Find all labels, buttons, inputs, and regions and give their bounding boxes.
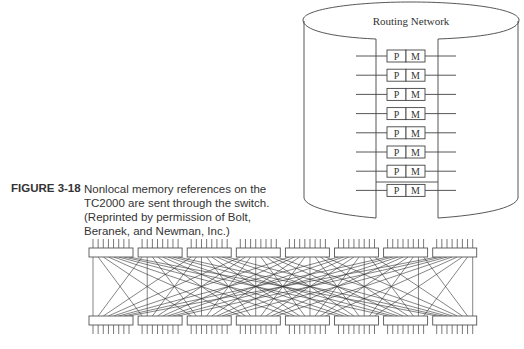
switch-box-top [433, 239, 477, 257]
memory-label: M [411, 89, 420, 100]
processor-label: P [394, 89, 400, 100]
switch-box-bottom [335, 316, 379, 334]
switch-box-bottom [236, 316, 280, 334]
switch-box-bottom [433, 316, 477, 334]
memory-label: M [411, 51, 420, 62]
butterfly-switch [89, 239, 477, 334]
caption-line: Nonlocal memory references on the [84, 182, 304, 196]
switch-box-bottom [89, 316, 133, 334]
switch-box-top [236, 239, 280, 257]
figure-caption: Nonlocal memory references on the TC2000… [84, 182, 304, 238]
pm-node: PM [356, 146, 456, 158]
processor-label: P [394, 51, 400, 62]
pm-node: PM [356, 88, 456, 100]
switch-box-top [89, 239, 133, 257]
tc2000-diagram: Routing Network PMPMPMPMPMPMPMPM [0, 0, 524, 349]
memory-label: M [411, 185, 420, 196]
routing-network-title: Routing Network [373, 15, 450, 27]
pm-node: PM [356, 108, 456, 120]
pm-node: PM [356, 165, 456, 177]
processor-label: P [394, 147, 400, 158]
pm-node: PM [356, 50, 456, 62]
pm-node: PM [356, 69, 456, 81]
pm-node: PM [356, 184, 456, 196]
switch-interconnect [93, 257, 473, 316]
pm-node: PM [356, 127, 456, 139]
processor-label: P [394, 70, 400, 81]
memory-label: M [411, 166, 420, 177]
switch-box-top [384, 239, 428, 257]
switch-box-top [335, 239, 379, 257]
figure-label: FIGURE 3-18 [11, 182, 81, 194]
memory-label: M [411, 128, 420, 139]
switch-box-bottom [187, 316, 231, 334]
caption-line: (Reprinted by permission of Bolt, [84, 210, 304, 224]
caption-line: TC2000 are sent through the switch. [84, 196, 304, 210]
caption-line: Beranek, and Newman, Inc.) [84, 224, 304, 238]
switch-box-top [138, 239, 182, 257]
memory-label: M [411, 147, 420, 158]
switch-box-bottom [285, 316, 329, 334]
switch-box-bottom [384, 316, 428, 334]
processor-label: P [394, 109, 400, 120]
processor-label: P [394, 185, 400, 196]
memory-label: M [411, 70, 420, 81]
memory-label: M [411, 109, 420, 120]
switch-box-bottom [138, 316, 182, 334]
processor-label: P [394, 128, 400, 139]
processor-label: P [394, 166, 400, 177]
switch-box-top [187, 239, 231, 257]
pm-node-list: PMPMPMPMPMPMPMPM [356, 50, 456, 196]
switch-box-top [285, 239, 329, 257]
